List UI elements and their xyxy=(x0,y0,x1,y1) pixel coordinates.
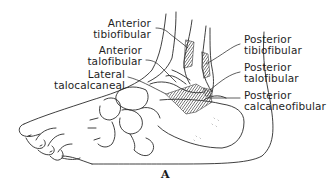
label-posterior-tibiofibular: Posterior tibiofibular xyxy=(244,34,302,56)
label-anterior-tibiofibular: Anterior tibiofibular xyxy=(93,18,151,40)
foot-bones xyxy=(88,82,244,156)
label-anterior-talofibular: Anterior talofibular xyxy=(87,45,142,67)
toes xyxy=(19,124,80,160)
leg-bones xyxy=(148,12,214,92)
label-lateral-talocalcaneal: Lateral talocalcaneal xyxy=(54,69,125,91)
ankle-ligaments-figure: Anterior tibiofibular Anterior talofibul… xyxy=(0,0,332,191)
label-posterior-calcaneofibular: Posterior calcaneofibular xyxy=(244,90,326,112)
panel-label: A xyxy=(161,168,170,181)
label-posterior-talofibular: Posterior talofibular xyxy=(244,62,299,84)
